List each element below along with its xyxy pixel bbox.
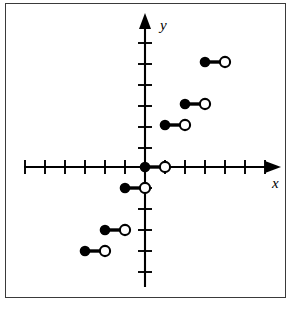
open-endpoint <box>180 120 190 130</box>
y-axis-label: y <box>160 18 167 33</box>
x-axis-label: x <box>272 176 279 191</box>
open-endpoint <box>220 57 230 67</box>
closed-endpoint <box>180 99 191 110</box>
closed-endpoint <box>140 162 151 173</box>
open-endpoint <box>120 225 130 235</box>
y-axis <box>139 13 151 287</box>
closed-endpoint <box>160 120 171 131</box>
open-endpoint <box>140 183 150 193</box>
closed-endpoint <box>200 57 211 68</box>
closed-endpoint <box>80 246 91 257</box>
open-endpoint <box>100 246 110 256</box>
figure-border-frame: y x <box>5 3 286 298</box>
open-endpoint <box>200 99 210 109</box>
closed-endpoint <box>100 225 111 236</box>
coordinate-plane-plot <box>6 4 285 297</box>
figure-root: y x <box>0 0 292 311</box>
step-segment-bars <box>85 62 225 251</box>
open-endpoints <box>100 57 230 256</box>
closed-endpoint <box>120 183 131 194</box>
open-endpoint <box>160 162 170 172</box>
